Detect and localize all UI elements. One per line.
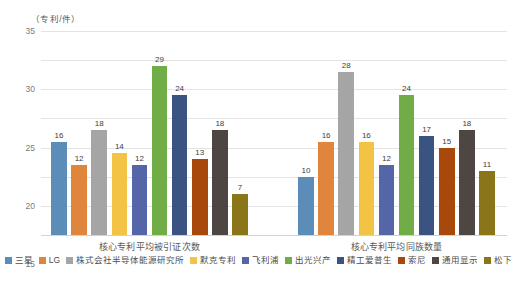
legend-color-swatch xyxy=(39,257,46,264)
bar-value-label: 16 xyxy=(55,132,64,140)
legend-item[interactable]: LG xyxy=(39,256,60,265)
bar-value-label: 17 xyxy=(422,126,431,134)
bar-rect[interactable] xyxy=(318,142,334,235)
bar-value-label: 14 xyxy=(115,143,124,151)
bar-value-label: 18 xyxy=(215,120,224,128)
bar-rect[interactable] xyxy=(51,142,67,235)
bar[interactable]: 18 xyxy=(212,130,228,235)
bar[interactable]: 16 xyxy=(51,142,67,235)
y-axis-tick-label: 20 xyxy=(26,201,35,211)
bar[interactable]: 10 xyxy=(298,177,314,235)
bar-value-label: 24 xyxy=(175,85,184,93)
bar-value-label: 13 xyxy=(195,149,204,157)
y-axis-tick-label: 25 xyxy=(26,143,35,153)
bar-rect[interactable] xyxy=(399,95,415,235)
bar[interactable]: 29 xyxy=(152,66,168,235)
bar-value-label: 29 xyxy=(155,56,164,64)
bar-rect[interactable] xyxy=(459,130,475,235)
bar-value-label: 15 xyxy=(442,138,451,146)
legend-item[interactable]: 通用显示 xyxy=(432,256,478,265)
bar-chart: （专利/件） 35302520151050 161218141229241318… xyxy=(0,0,517,282)
y-axis-tick-label: 35 xyxy=(26,26,35,36)
bar-rect[interactable] xyxy=(112,153,128,235)
legend-color-swatch xyxy=(337,257,344,264)
legend-color-swatch xyxy=(285,257,292,264)
legend-label: 株式会社半导体能源研究所 xyxy=(76,256,184,265)
bar[interactable]: 11 xyxy=(479,171,495,235)
legend-label: 三星 xyxy=(15,256,33,265)
y-axis-unit-caption: （专利/件） xyxy=(31,12,81,24)
x-axis-category-label: 核心专利平均同族数量 xyxy=(351,240,443,253)
legend-color-swatch xyxy=(66,257,73,264)
bar-value-label: 10 xyxy=(302,167,311,175)
legend-label: 精工爱普生 xyxy=(347,256,392,265)
legend-label: 索尼 xyxy=(408,256,426,265)
bar-value-label: 24 xyxy=(402,85,411,93)
legend-item[interactable]: 索尼 xyxy=(398,256,426,265)
legend-color-swatch xyxy=(190,257,197,264)
legend-item[interactable]: 松下 xyxy=(484,256,512,265)
bar[interactable]: 7 xyxy=(232,194,248,235)
plot-area: 35302520151050 1612181412292413187101628… xyxy=(41,31,507,235)
legend-color-swatch xyxy=(5,257,12,264)
bar-rect[interactable] xyxy=(212,130,228,235)
legend-label: 飞利浦 xyxy=(252,256,279,265)
bar-rect[interactable] xyxy=(132,165,148,235)
bar-rect[interactable] xyxy=(91,130,107,235)
bar-rect[interactable] xyxy=(419,136,435,235)
bar[interactable]: 12 xyxy=(132,165,148,235)
bar[interactable]: 15 xyxy=(439,148,455,235)
bar[interactable]: 18 xyxy=(91,130,107,235)
legend-color-swatch xyxy=(398,257,405,264)
legend-item[interactable]: 飞利浦 xyxy=(242,256,279,265)
legend-label: 松下 xyxy=(494,256,512,265)
bar[interactable]: 12 xyxy=(71,165,87,235)
bar[interactable]: 16 xyxy=(359,142,375,235)
bar-value-label: 7 xyxy=(238,184,242,192)
legend-label: 通用显示 xyxy=(442,256,478,265)
bar-rect[interactable] xyxy=(338,72,354,235)
gridline: 0 xyxy=(41,235,507,236)
bar-value-label: 12 xyxy=(135,155,144,163)
legend-color-swatch xyxy=(432,257,439,264)
bar[interactable]: 24 xyxy=(172,95,188,235)
legend: 三星LG株式会社半导体能源研究所默克专利飞利浦出光兴产精工爱普生索尼通用显示松下 xyxy=(0,256,517,265)
bar-rect[interactable] xyxy=(359,142,375,235)
bar[interactable]: 18 xyxy=(459,130,475,235)
bar[interactable]: 12 xyxy=(379,165,395,235)
legend-color-swatch xyxy=(242,257,249,264)
bar[interactable]: 24 xyxy=(399,95,415,235)
legend-item[interactable]: 默克专利 xyxy=(190,256,236,265)
bar[interactable]: 28 xyxy=(338,72,354,235)
legend-item[interactable]: 出光兴产 xyxy=(285,256,331,265)
bar-rect[interactable] xyxy=(172,95,188,235)
bar-rect[interactable] xyxy=(232,194,248,235)
bar-rect[interactable] xyxy=(479,171,495,235)
bar-rect[interactable] xyxy=(71,165,87,235)
bar[interactable]: 16 xyxy=(318,142,334,235)
bar-value-label: 11 xyxy=(483,161,491,169)
bar-rect[interactable] xyxy=(298,177,314,235)
legend-item[interactable]: 株式会社半导体能源研究所 xyxy=(66,256,184,265)
bar-value-label: 16 xyxy=(322,132,331,140)
bar-rect[interactable] xyxy=(152,66,168,235)
bar[interactable]: 17 xyxy=(419,136,435,235)
bar-value-label: 28 xyxy=(342,62,351,70)
bar[interactable]: 14 xyxy=(112,153,128,235)
bar-rect[interactable] xyxy=(192,159,208,235)
bar-value-label: 12 xyxy=(382,155,391,163)
bar[interactable]: 13 xyxy=(192,159,208,235)
legend-label: LG xyxy=(49,256,60,265)
bar-value-label: 12 xyxy=(75,155,84,163)
bar-value-label: 18 xyxy=(462,120,471,128)
legend-color-swatch xyxy=(484,257,491,264)
bar-rect[interactable] xyxy=(379,165,395,235)
legend-item[interactable]: 精工爱普生 xyxy=(337,256,392,265)
legend-item[interactable]: 三星 xyxy=(5,256,33,265)
legend-label: 出光兴产 xyxy=(295,256,331,265)
bar-groups: 161218141229241318710162816122417151811 xyxy=(41,31,507,235)
bar-value-label: 18 xyxy=(95,120,104,128)
bar-rect[interactable] xyxy=(439,148,455,235)
bar-value-label: 16 xyxy=(362,132,371,140)
legend-label: 默克专利 xyxy=(200,256,236,265)
